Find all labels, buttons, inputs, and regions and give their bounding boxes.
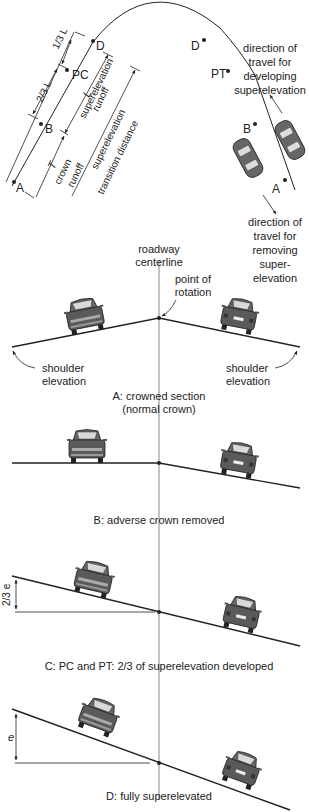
point-B-right: B <box>243 122 251 136</box>
label-rotation-2: rotation <box>175 286 212 298</box>
svg-text:elevation: elevation <box>253 272 297 284</box>
point-D-left: D <box>96 39 105 53</box>
caption-d: D: fully superelevated <box>106 790 212 802</box>
svg-text:removing: removing <box>252 244 297 256</box>
svg-text:travel for: travel for <box>254 230 297 242</box>
svg-text:developing: developing <box>243 70 296 82</box>
caption-c: C: PC and PT: 2/3 of superelevation deve… <box>45 660 274 672</box>
label-shoulder-right-2: elevation <box>226 375 270 387</box>
dim-e: e <box>8 731 14 743</box>
svg-text:superelevation: superelevation <box>234 84 306 96</box>
section-b: B: adverse crown removed <box>12 430 300 527</box>
point-D-right: D <box>191 39 200 53</box>
label-developing: direction of travel for developing super… <box>234 42 306 96</box>
label-centerline-2: centerline <box>135 256 183 268</box>
dim-two-thirds-e: 2/3 e <box>1 583 12 606</box>
svg-text:travel for: travel for <box>249 56 292 68</box>
point-A-left: A <box>16 181 24 195</box>
caption-b: B: adverse crown removed <box>94 514 225 526</box>
label-removing: direction of travel for removing super- … <box>248 216 303 284</box>
superelevation-diagram: A B PC D 1/3 L 2/3 L L T superelevation … <box>0 0 309 812</box>
section-c: 2/3 e C: PC and PT: 2/3 of superelevatio… <box>1 558 300 672</box>
caption-a-1: A: crowned section <box>113 390 206 402</box>
point-PC: PC <box>72 68 89 82</box>
label-shoulder-right-1: shoulder <box>226 362 269 374</box>
point-PT: PT <box>211 67 227 81</box>
point-B-left: B <box>45 122 53 136</box>
label-shoulder-left-2: elevation <box>42 375 86 387</box>
section-a: shoulder elevation shoulder elevation A:… <box>12 295 300 415</box>
point-A-right: A <box>272 182 280 196</box>
svg-text:direction of: direction of <box>243 42 298 54</box>
svg-text:super-: super- <box>259 258 291 270</box>
section-d: e D: fully superelevated <box>8 694 290 810</box>
label-shoulder-left-1: shoulder <box>42 362 85 374</box>
caption-a-2: (normal crown) <box>122 403 195 415</box>
label-centerline-1: roadway <box>138 243 180 255</box>
svg-text:direction of: direction of <box>248 216 303 228</box>
plan-view: A B PC D 1/3 L 2/3 L L T superelevation … <box>6 2 307 284</box>
car-top-left <box>231 136 266 180</box>
label-rotation-1: point of <box>175 273 212 285</box>
